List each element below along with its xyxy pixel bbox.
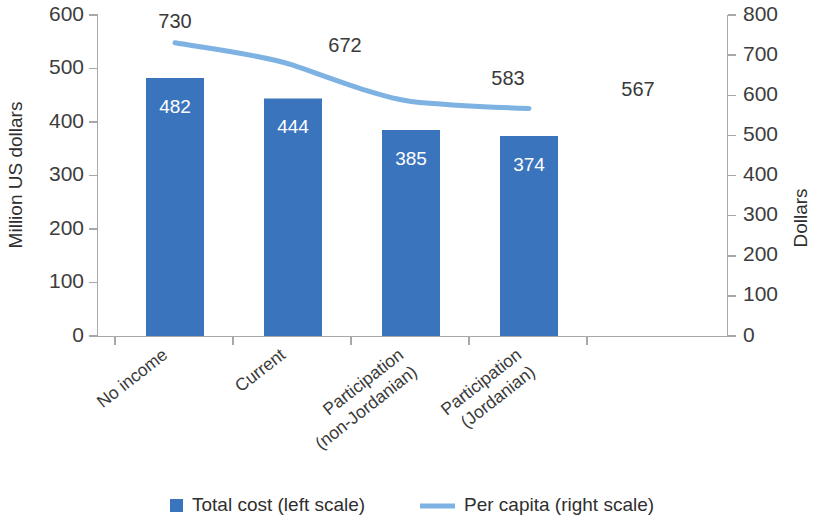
chart-svg: 600 500 400 300 200 100 0 Million US dol… — [0, 0, 825, 524]
category-labels: No income Current Participation (non-Jor… — [93, 344, 539, 453]
left-tick-label-0: 0 — [72, 323, 84, 346]
left-tick-label-300: 300 — [49, 162, 84, 185]
category-label-2: Participation (non-Jordanian) — [297, 344, 420, 453]
x-axis — [98, 337, 729, 346]
line-value-label-1: 672 — [328, 34, 361, 56]
bar-value-label-2: 385 — [395, 148, 427, 169]
chart-container: 600 500 400 300 200 100 0 Million US dol… — [0, 0, 825, 524]
right-tick-label-200: 200 — [743, 242, 778, 265]
line-series: 730 672 583 567 — [158, 10, 654, 109]
line-value-label-3: 567 — [621, 78, 654, 100]
category-label-3: Participation (Jordanian) — [437, 344, 539, 436]
left-axis-title: Million US dollars — [5, 102, 26, 249]
left-tick-label-500: 500 — [49, 55, 84, 78]
line-value-label-0: 730 — [158, 10, 191, 32]
right-axis-title: Dollars — [790, 188, 811, 247]
left-tick-label-400: 400 — [49, 109, 84, 132]
left-axis: 600 500 400 300 200 100 0 Million US dol… — [5, 2, 98, 346]
category-label-1-line1: Current — [231, 344, 289, 396]
right-tick-label-500: 500 — [743, 122, 778, 145]
legend-label-per-capita: Per capita (right scale) — [464, 494, 654, 515]
right-tick-label-400: 400 — [743, 162, 778, 185]
legend: Total cost (left scale) Per capita (righ… — [170, 494, 654, 515]
legend-swatch-square-icon — [170, 499, 183, 512]
legend-label-total-cost: Total cost (left scale) — [192, 494, 365, 515]
right-tick-label-300: 300 — [743, 202, 778, 225]
right-tick-label-700: 700 — [743, 42, 778, 65]
right-axis: 800 700 600 500 400 300 200 100 0 Dollar… — [728, 2, 812, 346]
line-value-label-2: 583 — [491, 67, 524, 89]
right-tick-label-100: 100 — [743, 282, 778, 305]
right-tick-label-800: 800 — [743, 2, 778, 25]
bar-value-label-3: 374 — [513, 154, 545, 175]
left-tick-label-200: 200 — [49, 216, 84, 239]
right-tick-label-0: 0 — [743, 323, 755, 346]
bar-series: 482 444 385 374 — [146, 78, 558, 336]
left-tick-label-600: 600 — [49, 2, 84, 25]
category-label-1: Current — [231, 344, 289, 396]
category-label-0: No income — [93, 344, 171, 411]
legend-item-total-cost[interactable]: Total cost (left scale) — [170, 494, 365, 515]
bar-value-label-0: 482 — [159, 96, 191, 117]
left-tick-label-100: 100 — [49, 269, 84, 292]
category-label-0-line1: No income — [93, 344, 171, 411]
right-tick-label-600: 600 — [743, 82, 778, 105]
bar-value-label-1: 444 — [277, 116, 309, 137]
legend-item-per-capita[interactable]: Per capita (right scale) — [420, 494, 654, 515]
